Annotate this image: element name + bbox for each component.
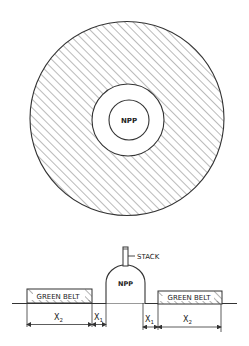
stack: STACK <box>123 247 160 266</box>
right-x1-label: X1 <box>145 315 154 325</box>
npp-building: NPP <box>106 265 145 304</box>
stack-label: STACK <box>137 253 160 261</box>
npp-green-belt-diagram: NPP GREEN BELT GREEN BELT NPP <box>0 0 249 346</box>
section-npp-label: NPP <box>118 280 133 288</box>
section-view: GREEN BELT GREEN BELT NPP STACK <box>12 247 237 332</box>
right-green-belt-label: GREEN BELT <box>167 294 211 302</box>
plan-view: NPP <box>30 22 224 216</box>
dimension-labels: X2 X1 X1 X2 <box>54 313 192 325</box>
left-green-belt-label: GREEN BELT <box>36 293 80 301</box>
right-green-belt: GREEN BELT <box>158 291 222 304</box>
left-green-belt: GREEN BELT <box>27 289 92 303</box>
left-x1-label: X1 <box>94 313 103 323</box>
right-x2-label: X2 <box>183 315 192 325</box>
plan-npp-label: NPP <box>121 117 137 125</box>
left-x2-label: X2 <box>54 313 63 323</box>
